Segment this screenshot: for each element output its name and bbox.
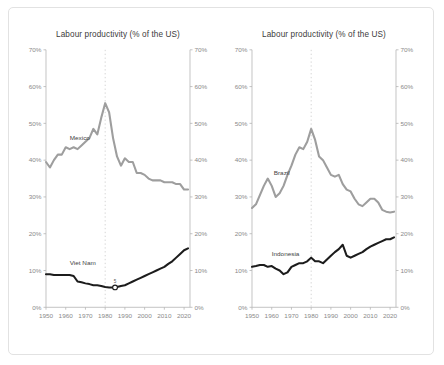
y-axis-tick-label-left: 70% bbox=[235, 46, 248, 53]
y-axis-tick-label-left: 20% bbox=[235, 230, 248, 237]
y-axis-tick-label-right: 70% bbox=[195, 46, 208, 53]
x-axis-tick-label: 1980 bbox=[98, 312, 113, 319]
y-axis-tick-label-right: 0% bbox=[401, 304, 411, 311]
x-axis-tick-label: 2020 bbox=[383, 312, 398, 319]
x-axis-tick-label: 1980 bbox=[304, 312, 319, 319]
y-axis-tick-label-right: 0% bbox=[195, 304, 205, 311]
series-label: Mexico bbox=[70, 134, 91, 141]
x-axis-tick-label: 1960 bbox=[265, 312, 280, 319]
y-axis-tick-label-left: 10% bbox=[29, 267, 42, 274]
y-axis-tick-label-left: 0% bbox=[238, 304, 248, 311]
x-axis-tick-label: 1960 bbox=[59, 312, 74, 319]
panel-right-plot: 0%0%10%10%20%20%30%30%40%40%50%50%60%60%… bbox=[221, 44, 427, 346]
x-axis-tick-label: 1990 bbox=[118, 312, 133, 319]
y-axis-tick-label-right: 40% bbox=[195, 156, 208, 163]
x-axis-tick-label: 1950 bbox=[39, 312, 54, 319]
y-axis-tick-label-right: 70% bbox=[401, 46, 414, 53]
y-axis-tick-label-left: 60% bbox=[235, 83, 248, 90]
y-axis-tick-label-left: 30% bbox=[235, 193, 248, 200]
y-axis-tick-label-left: 30% bbox=[29, 193, 42, 200]
x-axis-tick-label: 1970 bbox=[284, 312, 299, 319]
x-axis-tick-label: 1990 bbox=[324, 312, 339, 319]
panel-left-plot: 0%0%10%10%20%20%30%30%40%40%50%50%60%60%… bbox=[15, 44, 221, 346]
y-axis-tick-label-right: 20% bbox=[401, 230, 414, 237]
y-axis-tick-label-right: 10% bbox=[401, 267, 414, 274]
x-axis-tick-label: 2000 bbox=[138, 312, 153, 319]
panel-left-title: Labour productivity (% of the US) bbox=[15, 30, 221, 39]
x-axis-tick-label: 1970 bbox=[78, 312, 93, 319]
line-chart-right: 0%0%10%10%20%20%30%30%40%40%50%50%60%60%… bbox=[221, 44, 427, 346]
x-axis-tick-label: 2000 bbox=[344, 312, 359, 319]
y-axis-tick-label-left: 0% bbox=[32, 304, 42, 311]
y-axis-tick-label-left: 40% bbox=[29, 156, 42, 163]
panel-right-title: Labour productivity (% of the US) bbox=[221, 30, 427, 39]
y-axis-tick-label-right: 10% bbox=[195, 267, 208, 274]
y-axis-tick-label-right: 40% bbox=[401, 156, 414, 163]
x-axis-tick-label: 2020 bbox=[177, 312, 192, 319]
y-axis-tick-label-left: 10% bbox=[235, 267, 248, 274]
y-axis-tick-label-right: 20% bbox=[195, 230, 208, 237]
series-label: Brazil bbox=[274, 169, 290, 176]
series-line bbox=[46, 103, 188, 189]
line-chart-left: 0%0%10%10%20%20%30%30%40%40%50%50%60%60%… bbox=[15, 44, 221, 346]
series-line bbox=[46, 248, 188, 287]
panel-right: Labour productivity (% of the US) 0%0%10… bbox=[221, 30, 427, 346]
annotation-marker bbox=[113, 285, 118, 290]
series-label: Viet Nam bbox=[70, 259, 96, 266]
figure-frame: Labour productivity (% of the US) 0%0%10… bbox=[8, 7, 434, 355]
y-axis-tick-label-left: 50% bbox=[29, 120, 42, 127]
x-axis-tick-label: 2010 bbox=[363, 312, 378, 319]
annotation-label: 5 bbox=[114, 279, 117, 284]
y-axis-tick-label-right: 50% bbox=[401, 120, 414, 127]
y-axis-tick-label-left: 20% bbox=[29, 230, 42, 237]
y-axis-tick-label-right: 30% bbox=[195, 193, 208, 200]
x-axis-tick-label: 1950 bbox=[245, 312, 260, 319]
y-axis-tick-label-right: 30% bbox=[401, 193, 414, 200]
y-axis-tick-label-left: 40% bbox=[235, 156, 248, 163]
y-axis-tick-label-left: 50% bbox=[235, 120, 248, 127]
y-axis-tick-label-right: 60% bbox=[401, 83, 414, 90]
y-axis-tick-label-right: 60% bbox=[195, 83, 208, 90]
panel-container: Labour productivity (% of the US) 0%0%10… bbox=[9, 8, 433, 354]
y-axis-tick-label-left: 70% bbox=[29, 46, 42, 53]
panel-left: Labour productivity (% of the US) 0%0%10… bbox=[15, 30, 221, 346]
series-label: Indonesia bbox=[272, 250, 300, 257]
y-axis-tick-label-right: 50% bbox=[195, 120, 208, 127]
x-axis-tick-label: 2010 bbox=[157, 312, 172, 319]
y-axis-tick-label-left: 60% bbox=[29, 83, 42, 90]
